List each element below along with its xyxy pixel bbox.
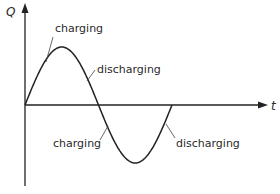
leader-line: [46, 37, 53, 62]
annotation-charging-2: charging: [53, 137, 101, 150]
x-axis-label: t: [271, 99, 277, 113]
leader-line: [87, 70, 95, 81]
charge-time-diagram: Q t charging discharging charging discha…: [0, 0, 280, 194]
annotation-discharging-1: discharging: [97, 63, 161, 76]
leader-line: [100, 126, 108, 140]
x-axis-arrow-icon: [258, 102, 268, 109]
annotation-discharging-2: discharging: [176, 137, 240, 150]
y-axis-label: Q: [6, 5, 15, 19]
annotation-charging-1: charging: [55, 22, 103, 35]
y-axis-arrow-icon: [22, 3, 29, 13]
leader-line: [166, 124, 175, 138]
